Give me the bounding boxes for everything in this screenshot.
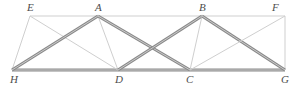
truss-diagram: EABFHDCG xyxy=(0,0,297,88)
truss-member-diagonal-d-b-inner xyxy=(118,16,202,70)
vertex-label-c: C xyxy=(186,74,193,85)
vertex-label-d: D xyxy=(115,74,123,85)
vertex-label-f: F xyxy=(272,2,279,13)
vertex-label-e: E xyxy=(27,2,34,13)
vertex-label-a: A xyxy=(95,2,102,13)
vertex-label-b: B xyxy=(199,2,206,13)
vertex-label-g: G xyxy=(281,74,289,85)
truss-member-diagonal-b-g-inner xyxy=(202,16,285,70)
truss-member-diagonal-a-d xyxy=(98,16,118,70)
truss-members-group xyxy=(12,16,285,70)
vertex-label-h: H xyxy=(10,74,18,85)
truss-member-diagonal-e-d xyxy=(30,16,118,70)
truss-member-diagonal-a-c-inner xyxy=(98,16,190,70)
truss-svg xyxy=(0,0,297,88)
truss-member-diagonal-h-a-inner xyxy=(12,16,98,70)
